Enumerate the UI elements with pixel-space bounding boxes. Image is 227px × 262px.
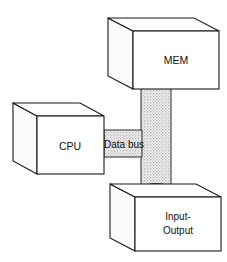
mem-box-label: MEM (164, 54, 189, 66)
io-box-label-line1: Input- (165, 211, 191, 222)
data-bus-vertical-segment (141, 88, 171, 189)
data-bus-label: Data bus (104, 139, 144, 150)
computer-system-diagram: MEM CPU Input- Output Data bus (0, 0, 227, 262)
cpu-box-label: CPU (59, 140, 81, 152)
diagram-canvas: MEM CPU Input- Output Data bus (0, 0, 227, 262)
io-box-label-line2: Output (163, 225, 193, 236)
node-cpu[interactable]: CPU (13, 103, 104, 174)
node-mem[interactable]: MEM (108, 18, 219, 89)
node-input-output[interactable]: Input- Output (110, 184, 221, 251)
